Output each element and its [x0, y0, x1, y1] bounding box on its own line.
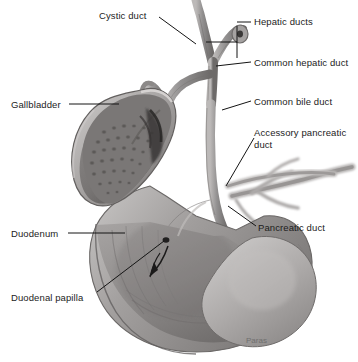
common-bile-duct-tube [206, 104, 227, 236]
anatomy-illustration [0, 0, 358, 362]
right-hepatic-duct [196, 0, 212, 62]
label-duodenum: Duodenum [11, 228, 58, 240]
label-cystic-duct: Cystic duct [99, 10, 147, 22]
gallbladder-body [70, 88, 185, 213]
leader-cystic-duct [159, 17, 196, 44]
label-common-hepatic-duct: Common hepatic duct [254, 57, 348, 69]
duodenum-body [90, 186, 317, 354]
duodenal-papilla-point [163, 237, 170, 243]
leader-common-bile-duct [222, 101, 251, 110]
leader-common-hepatic-duct [216, 62, 251, 66]
artist-signature: Paras [246, 336, 267, 345]
label-accessory-pancreatic-duct: Accessory pancreatic duct [254, 127, 350, 150]
hepatic-duct-stump [232, 25, 248, 43]
label-gallbladder: Gallbladder [11, 99, 61, 111]
label-pancreatic-duct: Pancreatic duct [258, 222, 325, 234]
label-duodenal-papilla: Duodenal papilla [11, 292, 83, 304]
common-hepatic-duct-tube [208, 62, 213, 104]
label-common-bile-duct: Common bile duct [254, 96, 332, 108]
anatomy-figure: Cystic duct Hepatic ducts Common hepatic… [0, 0, 358, 362]
label-hepatic-ducts: Hepatic ducts [254, 16, 313, 28]
